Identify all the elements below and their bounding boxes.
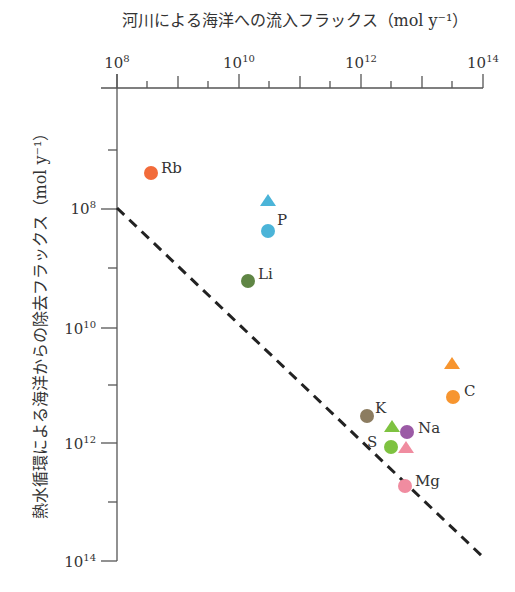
scatter-chart: 河川による海洋への流入フラックス（mol y⁻¹） 108 1010 1012 … xyxy=(0,0,515,592)
point-s-triangle xyxy=(384,420,400,432)
x-tick-label-1e12: 1012 xyxy=(345,53,377,72)
label-p: P xyxy=(277,211,287,229)
label-rb: Rb xyxy=(161,159,182,177)
x-tick-label-1e14: 1014 xyxy=(467,53,499,72)
point-p-triangle xyxy=(260,194,276,206)
point-p-circle xyxy=(261,224,275,238)
x-tick-label-1e10: 1010 xyxy=(223,53,255,72)
x-axis-title: 河川による海洋への流入フラックス（mol y⁻¹） xyxy=(122,11,469,30)
point-mg-circle xyxy=(398,479,412,493)
point-li-circle xyxy=(241,274,255,288)
y-tick-labels: 108 1010 1012 1014 xyxy=(64,199,96,571)
label-c: C xyxy=(464,382,475,400)
label-s: S xyxy=(367,433,377,451)
point-k-circle xyxy=(360,409,374,423)
label-na: Na xyxy=(418,419,440,437)
y-tick-label-1e8: 108 xyxy=(71,199,96,218)
x-tick-labels: 108 1010 1012 1014 xyxy=(104,53,499,72)
label-mg: Mg xyxy=(415,472,440,490)
y-axis-title: 熱水循環による海洋からの除去フラックス（mol y⁻¹） xyxy=(31,125,50,520)
y-axis xyxy=(101,74,117,561)
point-na-circle xyxy=(400,425,414,439)
reference-line-1to1 xyxy=(117,208,485,559)
point-labels: Rb P Li K Na S Mg C xyxy=(161,159,475,490)
x-tick-label-1e8: 108 xyxy=(104,53,129,72)
point-rb-circle xyxy=(144,166,158,180)
data-points xyxy=(144,166,460,493)
point-s-circle xyxy=(384,440,398,454)
y-tick-label-1e12: 1012 xyxy=(64,434,96,453)
label-li: Li xyxy=(258,265,273,283)
y-tick-label-1e14: 1014 xyxy=(64,552,96,571)
point-c-triangle xyxy=(444,357,460,369)
point-c-circle xyxy=(446,390,460,404)
y-tick-label-1e10: 1010 xyxy=(64,319,96,338)
label-k: K xyxy=(375,399,387,417)
point-mg-triangle xyxy=(398,441,414,453)
x-axis xyxy=(101,74,483,88)
